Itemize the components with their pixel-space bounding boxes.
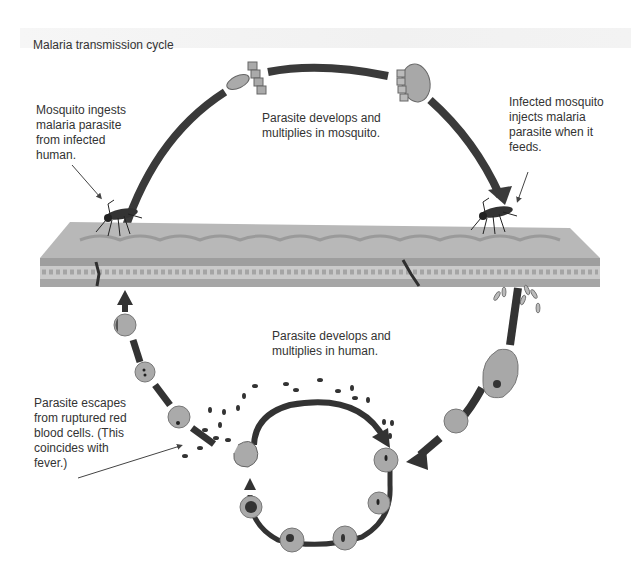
label-develops-in-human: Parasite develops and multiplies in huma…	[272, 329, 391, 359]
released-merozoites	[182, 378, 394, 458]
erythrocytic-cycle	[234, 402, 398, 552]
mosquito-gut-stage-left	[225, 62, 266, 94]
liver-cell	[483, 349, 518, 397]
pointer-arrow-icon	[72, 165, 100, 197]
label-parasite-escapes: Parasite escapes from ruptured red blood…	[34, 396, 127, 471]
skin-cross-section	[40, 222, 600, 287]
liver-stage-path	[406, 288, 518, 470]
merozoite-cell	[444, 409, 468, 433]
cycle-illustration	[0, 0, 631, 578]
mosquito-gut-stage-right	[397, 62, 433, 104]
ruptured-cell	[234, 441, 258, 467]
pointer-arrow-icon	[518, 172, 528, 200]
blood-stage-left-path	[114, 290, 214, 444]
arrowhead-icon	[488, 186, 512, 205]
label-develops-in-mosquito: Parasite develops and multiplies in mosq…	[262, 111, 381, 141]
mosquito-cycle-arc	[120, 68, 512, 245]
label-mosquito-ingests: Mosquito ingests malaria parasite from i…	[36, 103, 126, 163]
label-infected-mosquito-injects: Infected mosquito injects malaria parasi…	[509, 95, 604, 155]
